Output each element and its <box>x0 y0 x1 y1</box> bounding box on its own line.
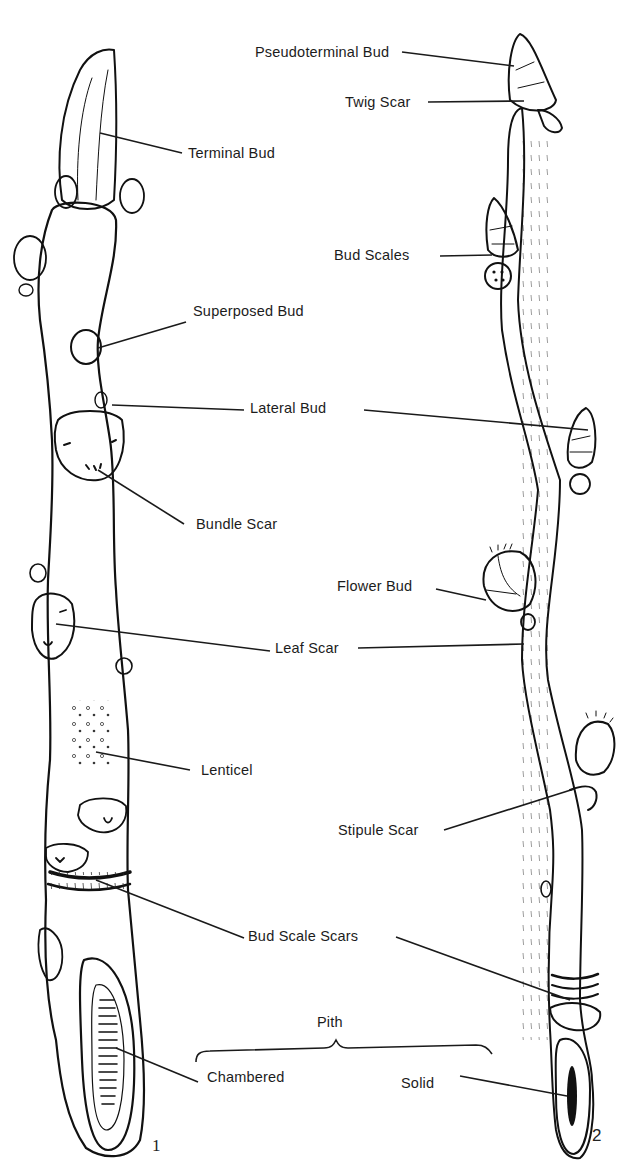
label-lateral-bud: Lateral Bud <box>250 400 326 416</box>
label-bundle-scar: Bundle Scar <box>196 516 277 532</box>
label-chambered: Chambered <box>207 1069 285 1085</box>
label-bud-scales: Bud Scales <box>334 247 409 263</box>
label-pith: Pith <box>317 1014 343 1030</box>
twig-drawings <box>0 0 639 1172</box>
label-leaf-scar: Leaf Scar <box>275 640 339 656</box>
twig-2-drawing <box>483 34 614 1158</box>
label-terminal-bud: Terminal Bud <box>188 145 275 161</box>
label-pseudoterminal-bud: Pseudoterminal Bud <box>255 44 389 60</box>
label-lenticel: Lenticel <box>201 762 253 778</box>
pith-brace <box>196 1040 492 1062</box>
panel-number-2: 2 <box>592 1126 601 1146</box>
label-stipule-scar: Stipule Scar <box>338 822 419 838</box>
panel-number-1: 1 <box>152 1136 161 1156</box>
label-solid: Solid <box>401 1075 434 1091</box>
label-flower-bud: Flower Bud <box>337 578 412 594</box>
chambered-pith-diaphragms <box>99 1000 117 1104</box>
twig-1-drawing <box>14 50 144 1157</box>
label-superposed-bud: Superposed Bud <box>193 303 304 319</box>
twig-morphology-figure: Pseudoterminal Bud Twig Scar Terminal Bu… <box>0 0 639 1172</box>
label-bud-scale-scars: Bud Scale Scars <box>248 928 358 944</box>
label-twig-scar: Twig Scar <box>345 94 410 110</box>
